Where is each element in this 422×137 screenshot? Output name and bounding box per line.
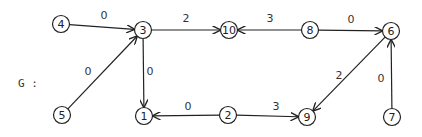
edge-2-to-9: 3: [236, 100, 298, 117]
node-3: 3: [135, 22, 152, 39]
node-label: 8: [307, 24, 314, 37]
node-6: 6: [383, 23, 400, 40]
node-label: 3: [140, 24, 147, 37]
edge-line: [318, 30, 382, 31]
edge-line: [153, 115, 220, 116]
node-label: 9: [304, 111, 311, 124]
node-4: 4: [53, 16, 70, 33]
edge-weight-label: 0: [85, 65, 92, 78]
node-1: 1: [136, 108, 153, 125]
edge-line: [68, 37, 137, 109]
edge-weight-label: 3: [273, 100, 280, 113]
edge-4-to-3: 0: [69, 9, 134, 29]
edge-weight-label: 2: [183, 12, 190, 25]
graph-diagram: 0023000320 43108651297 G :: [0, 0, 422, 137]
node-label: 2: [225, 109, 232, 122]
edge-5-to-3: 0: [68, 37, 137, 109]
edge-line: [391, 40, 392, 109]
node-label: 10: [222, 24, 236, 37]
edge-weight-label: 2: [336, 69, 343, 82]
node-label: 1: [141, 110, 148, 123]
edge-7-to-6: 0: [378, 40, 392, 109]
edge-2-to-1: 0: [153, 100, 220, 116]
node-10: 10: [221, 22, 238, 39]
node-2: 2: [220, 107, 237, 124]
edge-line: [313, 37, 385, 110]
edge-8-to-6: 0: [318, 13, 382, 31]
edge-weight-label: 0: [147, 65, 154, 78]
node-label: 4: [58, 18, 65, 31]
edge-3-to-1: 0: [143, 38, 153, 107]
edge-weight-label: 0: [101, 9, 108, 22]
edge-weight-label: 3: [267, 12, 274, 25]
edge-line: [236, 115, 298, 117]
graph-label: G :: [18, 77, 38, 90]
node-9: 9: [299, 109, 316, 126]
edge-8-to-10: 3: [238, 12, 302, 30]
edge-6-to-9: 2: [313, 37, 385, 110]
edge-3-to-10: 2: [152, 12, 221, 30]
node-8: 8: [302, 22, 319, 39]
edge-weight-label: 0: [185, 100, 192, 113]
edge-line: [143, 38, 144, 107]
node-5: 5: [54, 107, 71, 124]
node-label: 6: [388, 25, 395, 38]
node-label: 5: [59, 109, 66, 122]
node-label: 7: [389, 111, 396, 124]
edge-weight-label: 0: [348, 13, 355, 26]
edge-line: [69, 25, 134, 30]
node-7: 7: [384, 109, 401, 126]
edge-weight-label: 0: [378, 72, 385, 85]
